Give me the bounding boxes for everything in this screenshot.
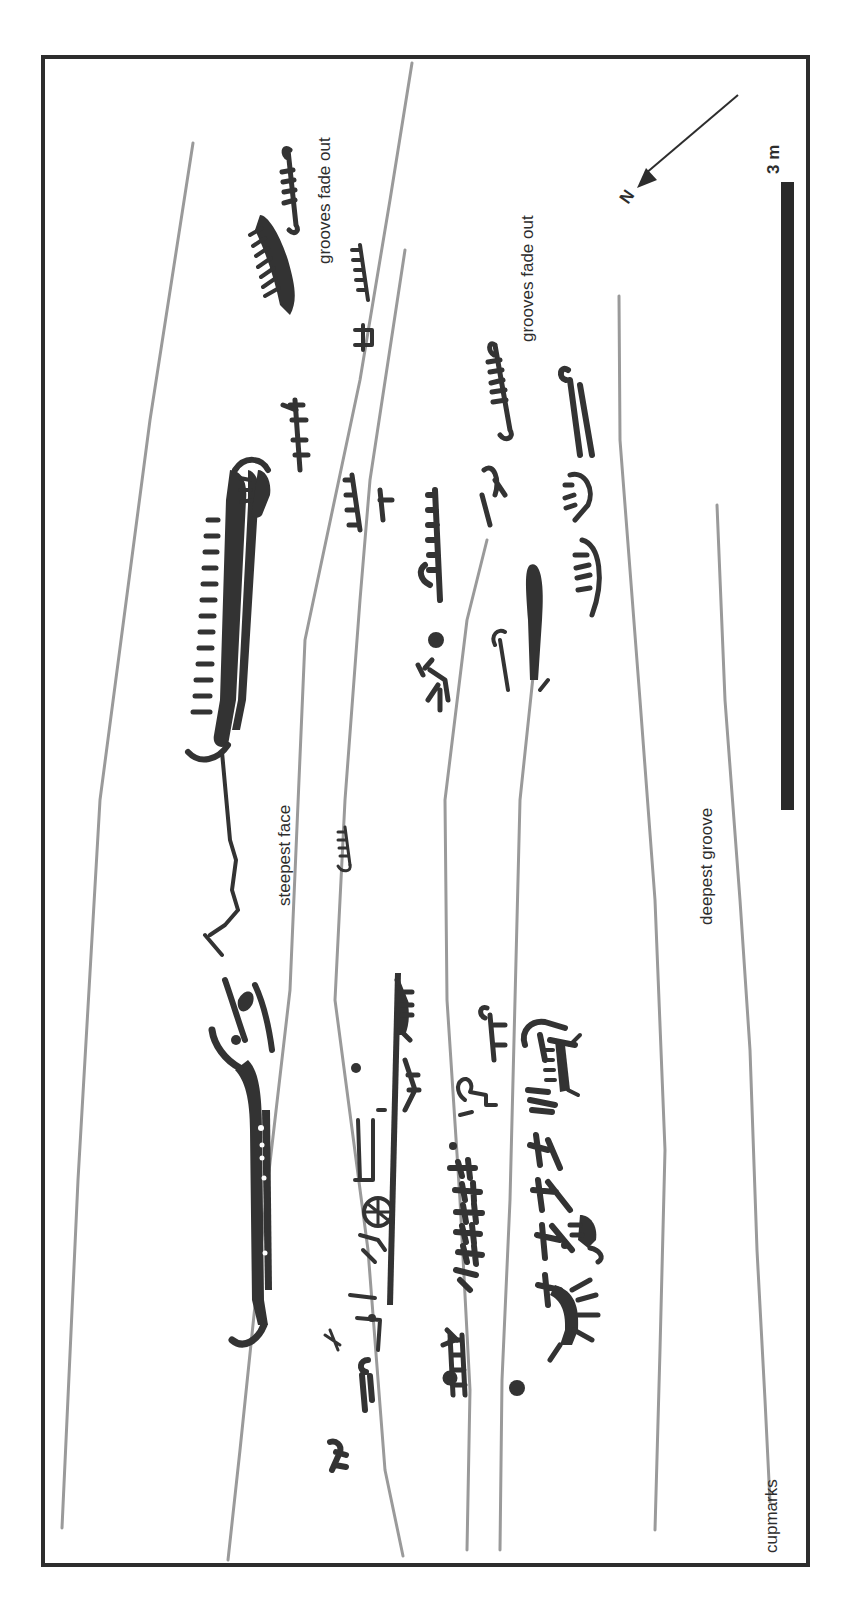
rake-figure-carving [565,474,590,520]
figure-frame [43,57,808,1565]
north-label: N [616,186,639,207]
crossbar-figure-carving [561,369,592,455]
rock-fissures [62,63,770,1560]
mast-boat-carving [283,400,308,470]
label-cupmarks: cupmarks [762,1479,781,1553]
deer-figure-carving [418,660,448,710]
cupmark [449,1142,457,1150]
label-grooves-fade-out-top: grooves fade out [315,137,334,264]
label-steepest-face: steepest face [275,805,294,906]
paired-curves-carving [482,468,505,525]
long-boat-carving [205,752,238,955]
label-deepest-groove: deepest groove [697,808,716,925]
box-carving [355,325,372,350]
scale-bar-label: 3 m [764,145,783,174]
north-arrow-icon: N [616,95,738,207]
sled-boat-carving [421,490,441,645]
small-ladder-boat-carving [352,245,368,300]
cupmark [509,1380,525,1396]
animal-figure-carving [481,1007,505,1060]
human-figures-row [450,1160,482,1290]
warrior-figures-group [524,1022,575,1305]
long-canoe-carving [493,564,548,690]
fissure-line-4 [445,540,487,1550]
curved-comb-carving [575,540,599,615]
human-figure-carving [458,1079,496,1115]
small-human-carving [325,1330,340,1350]
fissure-line-1 [62,143,193,1528]
keel-boat-carving [282,149,297,233]
curved-ship-carving [212,980,272,1344]
horse-figure-carving [550,1280,598,1360]
fissure-line-5 [500,658,535,1550]
scale-bar: 3 m [764,145,794,810]
scale-bar-rect [781,182,794,810]
tall-boat-carving [488,344,511,439]
fissure-line-6 [619,296,665,1530]
fissure-line-7 [717,505,770,1502]
boat-fragment-carving [405,1060,419,1110]
ladder-sled-carving [443,1330,465,1395]
rock-art-panel-figure: grooves fade out grooves fade out steepe… [0,0,864,1603]
small-animal-carving [330,1442,346,1470]
label-grooves-fade-out-mid: grooves fade out [518,215,537,342]
small-animal-carving [361,1360,372,1410]
horned-animal-carving [561,1215,601,1262]
